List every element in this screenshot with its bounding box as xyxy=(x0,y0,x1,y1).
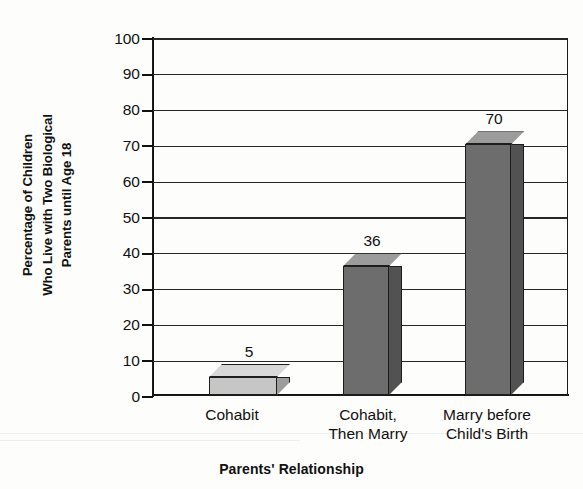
plot-area: 53670 xyxy=(152,38,568,396)
x-axis-title: Parents' Relationship xyxy=(0,461,583,477)
y-axis-tick-label: 70 xyxy=(94,138,140,154)
bar-side-face xyxy=(277,377,290,395)
y-axis-tick-label: 100 xyxy=(94,31,140,47)
scan-artifact-line xyxy=(0,440,300,441)
y-axis-tick xyxy=(142,145,153,147)
y-axis-tick-label: 0 xyxy=(94,389,140,405)
bar-top-face xyxy=(465,131,524,144)
bar-top-face xyxy=(343,253,402,266)
y-axis-tick-labels: 0102030405060708090100 xyxy=(88,38,140,396)
y-axis-tick xyxy=(142,253,153,255)
y-axis-tick xyxy=(142,181,153,183)
y-axis-title-line-3: Parents until Age 18 xyxy=(57,114,77,296)
bar-face-face xyxy=(465,144,511,395)
y-axis-tick xyxy=(142,217,153,219)
bar-value-label: 36 xyxy=(360,233,383,249)
y-axis-tick xyxy=(142,360,153,362)
y-axis-title: Percentage of Children Who Live with Two… xyxy=(18,60,76,350)
x-axis-category-label-line-1: Cohabit xyxy=(205,405,258,424)
y-axis-tick-label: 50 xyxy=(94,210,140,226)
x-axis-category-label-line-1: Marry before xyxy=(443,405,531,424)
y-axis-tick xyxy=(142,38,153,40)
y-axis-title-line-1: Percentage of Children xyxy=(18,114,38,296)
bar xyxy=(465,144,511,395)
y-axis-tick xyxy=(142,324,153,326)
x-axis-category-label: Cohabit,Then Marry xyxy=(328,405,407,443)
bar-face-face xyxy=(209,377,277,395)
y-axis-title-line-2: Who Live with Two Biological xyxy=(37,114,57,296)
bar xyxy=(343,266,389,395)
y-axis-tick-label: 60 xyxy=(94,174,140,190)
y-axis-tick-label: 80 xyxy=(94,102,140,118)
y-axis-tick-label: 20 xyxy=(94,317,140,333)
y-axis-tick-label: 90 xyxy=(94,66,140,82)
x-axis-category-label: Marry beforeChild's Birth xyxy=(443,405,531,443)
y-axis-tick xyxy=(142,396,153,398)
bar xyxy=(209,377,277,395)
y-axis-tick-label: 40 xyxy=(94,245,140,261)
y-axis-tick xyxy=(142,74,153,76)
x-axis-category-label: Cohabit xyxy=(205,405,258,424)
x-axis-category-label-line-2: Child's Birth xyxy=(443,424,531,443)
bar-value-label: 70 xyxy=(482,111,505,127)
bar-face-face xyxy=(343,266,389,395)
bar-top-face xyxy=(209,364,290,377)
y-axis-tick xyxy=(142,289,153,291)
gridline xyxy=(153,38,567,39)
y-axis-tick xyxy=(142,110,153,112)
x-axis-category-label-line-1: Cohabit, xyxy=(328,405,407,424)
chart-page: Percentage of Children Who Live with Two… xyxy=(0,0,583,489)
y-axis-tick-label: 10 xyxy=(94,353,140,369)
bar-side-face xyxy=(511,144,524,395)
bar-value-label: 5 xyxy=(242,344,257,360)
x-axis-category-label-line-2: Then Marry xyxy=(328,424,407,443)
gridline xyxy=(153,74,567,75)
y-axis-tick-label: 30 xyxy=(94,281,140,297)
bar-side-face xyxy=(389,266,402,395)
